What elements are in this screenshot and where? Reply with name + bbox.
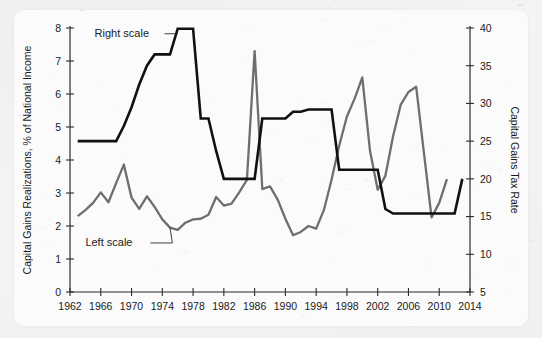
x-tick-label: 1962 — [58, 300, 82, 312]
noise-speck — [335, 0, 337, 2]
noise-speck — [537, 47, 539, 48]
x-tick-label: 2002 — [366, 300, 390, 312]
noise-speck — [402, 22, 406, 24]
noise-speck — [40, 198, 44, 199]
noise-speck — [183, 252, 189, 254]
noise-speck — [485, 161, 488, 163]
noise-speck — [138, 99, 143, 100]
y2-tick-label: 35 — [480, 60, 492, 72]
noise-speck — [391, 329, 393, 330]
noise-speck — [322, 20, 327, 22]
noise-speck — [330, 259, 334, 260]
y-tick-label: 2 — [55, 220, 61, 232]
annotation-label-right-scale: Right scale — [95, 27, 149, 39]
noise-speck — [538, 20, 541, 21]
y2-tick-label: 20 — [480, 173, 492, 185]
noise-speck — [497, 169, 502, 171]
noise-speck — [324, 101, 328, 103]
y2-axis-title: Capital Gains Tax Rate — [509, 106, 521, 213]
noise-speck — [326, 119, 331, 121]
series-capital-gains-realizations — [78, 51, 447, 235]
y-tick-label: 4 — [55, 154, 61, 166]
noise-speck — [98, 83, 101, 84]
y-tick-label: 1 — [55, 253, 61, 265]
x-tick-label: 1990 — [274, 300, 298, 312]
noise-speck — [336, 233, 341, 234]
noise-speck — [466, 172, 468, 174]
noise-speck — [208, 101, 213, 102]
noise-speck — [474, 189, 476, 191]
noise-speck — [269, 133, 274, 135]
noise-speck — [301, 315, 304, 317]
annotation-label-left-scale: Left scale — [85, 236, 132, 248]
x-tick-label: 1974 — [151, 300, 175, 312]
x-tick-label: 1970 — [120, 300, 144, 312]
noise-speck — [169, 234, 171, 236]
noise-speck — [311, 140, 314, 142]
y2-tick-label: 5 — [480, 286, 486, 298]
chart-annotations: Right scaleLeft scale — [85, 27, 177, 248]
noise-speck — [47, 245, 52, 246]
x-tick-label: 2006 — [397, 300, 421, 312]
y-tick-label: 8 — [55, 22, 61, 34]
noise-speck — [120, 154, 125, 155]
capital-gains-chart: 0123456785101520253035401962196619701974… — [0, 0, 542, 338]
y-tick-label: 6 — [55, 88, 61, 100]
x-tick-label: 1994 — [304, 300, 328, 312]
noise-speck — [87, 202, 91, 203]
noise-speck — [415, 146, 418, 148]
noise-speck — [369, 40, 374, 41]
noise-speck — [424, 263, 430, 264]
noise-speck — [217, 194, 219, 195]
noise-speck — [357, 42, 362, 43]
y-tick-label: 5 — [55, 121, 61, 133]
y2-tick-label: 30 — [480, 97, 492, 109]
x-tick-label: 1966 — [89, 300, 113, 312]
noise-speck — [278, 179, 283, 181]
noise-speck — [374, 148, 378, 149]
y2-tick-label: 10 — [480, 248, 492, 260]
scan-noise — [1, 0, 541, 338]
noise-speck — [39, 228, 45, 230]
x-tick-label: 2014 — [458, 300, 482, 312]
noise-speck — [505, 84, 508, 85]
noise-speck — [382, 28, 386, 29]
noise-speck — [321, 178, 324, 179]
y-tick-label: 7 — [55, 55, 61, 67]
noise-speck — [342, 230, 344, 231]
noise-speck — [65, 287, 69, 289]
noise-speck — [299, 97, 301, 99]
noise-speck — [53, 74, 54, 76]
noise-speck — [345, 188, 350, 190]
x-tick-label: 1978 — [181, 300, 205, 312]
screenshot-root: 0123456785101520253035401962196619701974… — [0, 0, 542, 338]
x-tick-label: 1986 — [243, 300, 267, 312]
chart-series — [78, 29, 463, 235]
y2-tick-label: 25 — [480, 135, 492, 147]
noise-speck — [79, 9, 84, 11]
noise-speck — [1, 142, 2, 144]
noise-speck — [243, 59, 248, 60]
noise-speck — [364, 179, 369, 181]
noise-speck — [33, 0, 35, 2]
noise-speck — [512, 263, 515, 265]
noise-speck — [415, 195, 416, 197]
noise-speck — [193, 93, 197, 95]
axis-frame — [70, 26, 470, 292]
noise-speck — [410, 53, 416, 54]
noise-speck — [115, 109, 118, 111]
noise-speck — [74, 224, 79, 225]
noise-speck — [153, 268, 158, 270]
y-tick-label: 0 — [55, 286, 61, 298]
noise-speck — [518, 4, 523, 6]
noise-speck — [61, 108, 63, 109]
noise-speck — [531, 240, 535, 241]
noise-speck — [507, 293, 511, 294]
noise-speck — [33, 334, 36, 335]
x-tick-label: 1998 — [335, 300, 359, 312]
noise-speck — [442, 150, 444, 151]
y-axis-title: Capital Gains Realizations, % of Nationa… — [21, 45, 33, 274]
y2-tick-label: 15 — [480, 210, 492, 222]
x-tick-label: 1982 — [212, 300, 236, 312]
y2-tick-label: 40 — [480, 22, 492, 34]
